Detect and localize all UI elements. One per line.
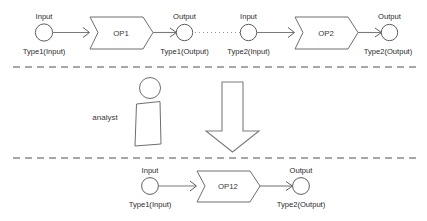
op1-process-label: OP1: [113, 29, 129, 38]
op12-input-top-label: Input: [142, 166, 160, 175]
op2-output-bottom-label: Type2(Output): [364, 47, 413, 56]
op12-process-label: OP12: [218, 182, 238, 191]
op2-input-bottom-label: Type2(Input): [227, 47, 270, 56]
op2-output-circle[interactable]: [381, 24, 397, 40]
diagram-svg: Input Type1(Input) OP1 Output Type1(Outp…: [0, 0, 427, 221]
op12-output-circle[interactable]: [293, 178, 310, 195]
op1-input-top-label: Input: [36, 12, 54, 21]
op1-input-circle[interactable]: [35, 24, 52, 41]
analyst-head-icon: [140, 78, 161, 99]
analyst-label: analyst: [92, 113, 118, 122]
op12-input-bottom-label: Type1(Input): [129, 200, 172, 209]
op2-output-top-label: Output: [378, 12, 402, 21]
op2-input-top-label: Input: [240, 12, 258, 21]
transform-down-arrow-icon: [206, 82, 259, 152]
op1-output-top-label: Output: [173, 12, 197, 21]
op12-output-bottom-label: Type2(Output): [277, 200, 326, 209]
op12-input-circle[interactable]: [142, 178, 159, 195]
op12-output-top-label: Output: [290, 166, 314, 175]
analyst-actor[interactable]: [135, 78, 161, 147]
op1-output-circle[interactable]: [176, 24, 192, 40]
op2-input-circle[interactable]: [240, 24, 256, 40]
op1-output-bottom-label: Type1(Output): [160, 47, 209, 56]
op2-process-label: OP2: [318, 29, 334, 38]
op1-input-bottom-label: Type1(Input): [23, 47, 66, 56]
diagram-canvas: Input Type1(Input) OP1 Output Type1(Outp…: [0, 0, 427, 221]
analyst-body-icon: [135, 102, 161, 147]
